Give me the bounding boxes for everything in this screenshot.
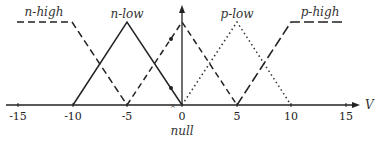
series-n-high — [17, 22, 127, 105]
label-n-high: n-high — [25, 5, 64, 19]
x-tick-labels: -15 -10 -5 0 5 10 15 — [9, 110, 353, 123]
label-null: null — [170, 124, 193, 138]
tick-label: 15 — [339, 110, 353, 123]
label-n-low: n-low — [110, 7, 144, 21]
tick-label: 0 — [179, 110, 186, 123]
x-axis-arrow-icon — [352, 102, 360, 108]
series-p-high — [237, 22, 346, 105]
membership-chart: -15 -10 -5 0 5 10 15 V × n-high n-low p-… — [0, 0, 377, 152]
tick-label: 5 — [234, 110, 241, 123]
tick-label: 10 — [284, 110, 298, 123]
tick-label: -15 — [9, 110, 27, 123]
x-marker-icon: × — [170, 102, 176, 110]
marker-dot-icon — [169, 86, 173, 90]
marker-dot-icon — [169, 37, 173, 41]
series-n-low — [73, 22, 182, 105]
label-p-high: p-high — [301, 5, 340, 19]
series-p-low — [182, 22, 291, 105]
y-axis-arrow-icon — [179, 5, 185, 13]
label-p-low: p-low — [220, 7, 254, 21]
x-axis-label: V — [365, 98, 375, 112]
tick-label: -5 — [122, 110, 133, 123]
tick-label: -10 — [64, 110, 82, 123]
